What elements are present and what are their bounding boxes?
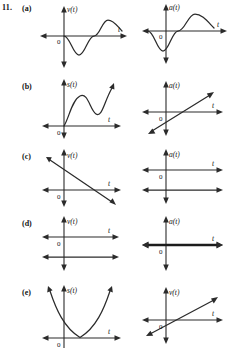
x-axis-label: t [108,115,111,124]
x-axis-label: t [108,226,111,235]
x-axis-arrow-right-icon [217,317,224,323]
graph-a-right: a(t) t 0 [138,1,230,67]
graph-b-right: a(t) t 0 [138,80,230,138]
curve-arrow-left-icon [142,187,149,193]
x-axis-arrow-right-icon [217,109,224,115]
curve-arrow-upleft-icon [46,157,52,163]
y-axis-arrow-up-icon [61,79,67,86]
x-axis-arrow-left-icon [42,335,49,341]
problem-row-e: (e) s(t) t 0 [0,282,233,352]
x-axis-arrow-left-icon [142,317,149,323]
y-axis-arrow-down-icon [61,133,67,140]
curve-parabola [50,291,110,338]
y-axis-arrow-down-icon [163,265,169,272]
curve-arrow-right-icon [113,254,120,260]
origin-label: 0 [57,129,61,137]
x-axis-arrow-right-icon [121,33,128,39]
row-label-a: (a) [22,4,31,13]
y-axis-arrow-up-icon [163,4,169,11]
origin-label: 0 [159,173,163,181]
graph-c-left: v(t) t 0 [38,148,130,208]
y-axis-arrow-down-icon [163,198,169,205]
y-axis-label: v(t) [67,151,78,160]
y-axis-label: a(t) [169,217,180,226]
x-axis-arrow-right-icon [221,28,228,34]
curve-negative-sine [148,14,214,51]
y-axis-label: s(t) [67,80,78,89]
graph-d-right: a(t) t 0 [138,215,230,273]
y-axis-arrow-up-icon [61,216,67,223]
x-axis-label: t [212,309,215,318]
graph-e-right: v(t) t 0 [138,286,230,348]
x-axis-label: t [217,20,220,29]
row-label-c: (c) [22,152,31,161]
x-axis-label: t [108,327,111,336]
x-axis-arrow-left-icon [42,234,49,240]
y-axis-arrow-down-icon [61,62,67,69]
problem-row-d: (d) v(t) t 0 [0,212,233,270]
origin-label: 0 [159,323,163,331]
curve-arrow-icon [109,83,114,89]
curve-arrow-right-icon [217,242,224,249]
x-axis-label: t [212,101,215,110]
origin-label: 0 [57,193,61,201]
x-axis-arrow-right-icon [217,167,224,173]
curve-arrow-left-icon [42,254,49,260]
problem-row-a: (a) v(t) t 0 [0,0,233,70]
curve-rising-wavy [64,88,112,126]
curve-arrow-right-icon [217,187,224,193]
x-axis-arrow-left-icon [142,167,149,173]
curve-rising-line [152,95,210,131]
curve-arrow-up-icon [211,297,218,303]
y-axis-arrow-up-icon [61,149,67,156]
problem-row-c: (c) v(t) t 0 [0,145,233,207]
y-axis-arrow-down-icon [163,58,169,65]
x-axis-arrow-left-icon [40,33,47,39]
y-axis-label: a(t) [169,150,180,159]
x-axis-label: t [108,179,111,188]
origin-label: 0 [159,33,163,41]
curve-arrow-left-icon [142,242,149,249]
origin-label: 0 [57,38,61,46]
y-axis-arrow-down-icon [61,201,67,208]
x-axis-label: t [212,234,215,243]
y-axis-label: v(t) [67,5,78,14]
origin-label: 0 [159,248,163,256]
row-label-d: (d) [22,219,32,228]
y-axis-arrow-up-icon [61,6,67,13]
y-axis-label: a(t) [169,81,180,90]
y-axis-arrow-down-icon [163,338,169,345]
graph-e-left: s(t) t 0 [38,284,130,352]
graph-c-right: a(t) t 0 [138,148,230,206]
origin-label: 0 [57,240,61,248]
graph-d-left: v(t) t 0 [38,215,130,273]
y-axis-label: v(t) [67,217,78,226]
y-axis-arrow-up-icon [61,285,67,292]
curve-arrow-up-icon [207,92,214,98]
graph-b-left: s(t) t 0 [38,78,130,140]
y-axis-label: a(t) [169,3,180,12]
origin-label: 0 [57,341,61,349]
x-axis-label: t [212,159,215,168]
y-axis-arrow-up-icon [163,216,169,223]
graph-a-left: v(t) t 0 [38,3,130,69]
y-axis-arrow-up-icon [163,149,169,156]
y-axis-arrow-up-icon [163,81,169,88]
y-axis-arrow-up-icon [163,287,169,294]
y-axis-arrow-down-icon [61,265,67,272]
curve-sine [64,20,122,55]
x-axis-arrow-left-icon [142,109,149,115]
row-label-e: (e) [22,288,31,297]
y-axis-label: s(t) [67,286,78,295]
x-axis-arrow-left-icon [42,123,49,129]
y-axis-label: v(t) [169,288,180,297]
x-axis-arrow-right-icon [115,187,122,193]
x-axis-arrow-right-icon [113,234,120,240]
curve-arrow-downright-icon [109,198,116,205]
x-axis-arrow-left-icon [42,187,49,193]
x-axis-arrow-right-icon [115,335,122,341]
y-axis-arrow-down-icon [163,130,169,137]
origin-label: 0 [159,115,163,123]
worksheet-page: 11. (a) v(t) t 0 [0,0,233,352]
x-axis-arrow-right-icon [115,123,122,129]
